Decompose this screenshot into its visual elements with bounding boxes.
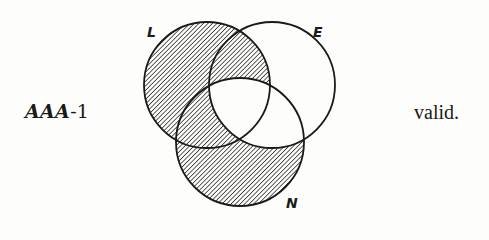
set-label-l: L [147,24,156,40]
verdict-label: valid. [414,101,459,124]
shaded-region [144,22,304,206]
set-label-n: N [286,195,298,211]
set-label-e: E [313,24,323,40]
